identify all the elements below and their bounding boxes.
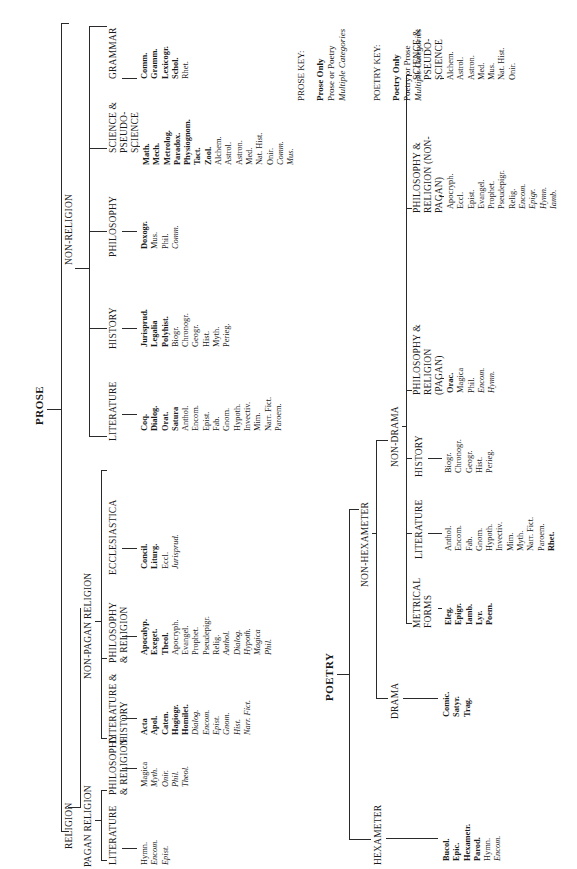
- list-item: Iamb.: [465, 603, 475, 625]
- list-item: Prose or Poetry: [326, 29, 337, 101]
- list-item: Phil.: [467, 368, 477, 393]
- connector: [101, 738, 107, 739]
- poetry-non-drama-header: NON-DRAMA: [390, 406, 401, 467]
- list-item: Dialog.: [191, 700, 201, 735]
- connector: [122, 328, 137, 329]
- poetry-literature-header: LITERATURE: [414, 499, 425, 559]
- connector: [440, 196, 444, 197]
- prose-grammar-header: GRAMMAR: [108, 27, 119, 79]
- list-item: Chronogr.: [181, 309, 191, 347]
- connector: [101, 470, 107, 471]
- connector: [122, 768, 137, 769]
- list-item: Encom.: [191, 397, 201, 431]
- connector: [122, 78, 137, 79]
- list-item: Encom.: [518, 170, 528, 209]
- list-item: Multiple Categories: [413, 29, 424, 101]
- list-item: Hypoth.: [243, 616, 253, 655]
- connector: [101, 791, 102, 861]
- list-item: Nat. Hist.: [255, 119, 265, 165]
- poetry-science-list: Alchem.Astrol.Astron.Med.Mus.Nat. Hist.O…: [446, 48, 518, 80]
- prose-philosophy-header: PHILOSOPHY: [108, 196, 119, 257]
- prose-philosophy-list: Doxogr.Mus.Phil.Comm.: [140, 221, 181, 249]
- list-item: Mus.: [150, 221, 160, 249]
- list-item: Prose Only: [315, 29, 326, 101]
- prose-history-list: Jurisprud.LegaliaPolyhist.Biogr.Chronogr…: [140, 309, 233, 347]
- list-item: Epigr.: [528, 170, 538, 209]
- list-item: Dialog.: [150, 397, 160, 431]
- list-item: Geogr.: [465, 439, 475, 473]
- connector: [440, 378, 444, 379]
- list-item: Pseudepigr.: [202, 616, 212, 655]
- list-item: Mech.: [152, 119, 162, 165]
- non-religion-label: NON-RELIGION: [64, 194, 75, 265]
- list-item: Magica: [456, 368, 466, 393]
- list-item: Comm.: [140, 46, 150, 79]
- list-item: Epist.: [202, 397, 212, 431]
- list-item: Comm.: [171, 221, 181, 249]
- poetry-title: POETRY: [323, 653, 335, 701]
- list-item: Multiple Categories: [337, 29, 348, 101]
- connector: [440, 78, 444, 79]
- list-item: Epic.: [452, 824, 462, 861]
- list-item: Homilet.: [181, 700, 191, 735]
- prose-literature-list: Coq.Dialog.Orat.SaturaAnthol.Encom.Epist…: [140, 397, 284, 431]
- list-item: Eleg.: [444, 603, 454, 625]
- list-item: Paradox.: [173, 119, 183, 165]
- list-item: Alchem.: [446, 48, 456, 80]
- connector: [89, 436, 107, 437]
- list-item: Eccl.: [456, 170, 466, 209]
- connector: [337, 674, 349, 675]
- prose-ecclesiastica-list: Concil.Liturg.Eccl.Jurisprud.: [140, 534, 181, 569]
- list-item: Epist.: [161, 840, 171, 865]
- list-item: Relig.: [508, 170, 518, 209]
- connector: [47, 409, 61, 410]
- list-item: Anthol.: [181, 397, 191, 431]
- list-item: Anthol.: [222, 616, 232, 655]
- list-item: Theol.: [161, 616, 171, 655]
- list-item: Paroem.: [274, 397, 284, 431]
- poetry-phil-nonpagan-header: PHILOSOPHY & RELIGION (NON-PAGAN): [412, 129, 445, 213]
- list-item: Eccl.: [161, 534, 171, 569]
- prose-science-header: SCIENCE & PSEUDO-SCIENCE: [108, 93, 141, 153]
- list-item: Schol.: [171, 46, 181, 79]
- poetry-key-entries: Poetry OnlyPoetry or ProseMultiple Categ…: [391, 29, 424, 101]
- connector: [122, 414, 137, 415]
- connector: [376, 441, 377, 699]
- list-item: Nat. Hist.: [497, 48, 507, 80]
- list-item: Orac.: [446, 368, 456, 393]
- list-item: Apol.: [150, 700, 160, 735]
- list-item: Mim.: [253, 397, 263, 431]
- connector: [122, 548, 137, 549]
- list-item: Phil.: [161, 221, 171, 249]
- poetry-phil-pagan-list: Orac.MagicaPhil.Encom.Hymn.: [446, 368, 497, 393]
- connector: [61, 23, 69, 24]
- prose-key: PROSE KEY: Prose OnlyProse or PoetryMult…: [296, 29, 348, 101]
- list-item: Coq.: [140, 397, 150, 431]
- list-item: Gnom.: [222, 700, 232, 735]
- list-item: Encom.: [150, 840, 160, 865]
- list-item: Evangel.: [477, 170, 487, 209]
- list-item: Jurisprud.: [140, 309, 150, 347]
- list-item: Metrolog.: [163, 119, 173, 165]
- connector: [122, 231, 137, 232]
- list-item: Relig.: [212, 616, 222, 655]
- connector: [349, 510, 350, 840]
- prose-literature-header: LITERATURE: [108, 381, 119, 441]
- list-item: Magica: [253, 616, 263, 655]
- connector: [406, 76, 407, 624]
- list-item: Narr. Fict.: [264, 397, 274, 431]
- poetry-phil-nonpagan-list: Apocryph.Eccl.Epist.Evangel.Prophet.Pseu…: [446, 170, 559, 209]
- prose-key-title: PROSE KEY:: [296, 29, 307, 101]
- list-item: Encom.: [493, 824, 503, 861]
- list-item: Satyr.: [452, 692, 462, 717]
- list-item: Epist.: [212, 700, 222, 735]
- connector: [406, 458, 412, 459]
- prose-title: PROSE: [33, 386, 45, 425]
- connector: [438, 608, 442, 609]
- prose-science-list: Math.Mech.Metrolog.Paradox.Physiognom.Ta…: [142, 119, 296, 165]
- pagan-religion-label: PAGAN RELIGION: [83, 785, 94, 867]
- list-item: Astron.: [467, 48, 477, 80]
- list-item: Hagiogr.: [171, 700, 181, 735]
- poetry-hexameter-list: Bucol.Epic.Hexametr.Parod.Hymn.Encom.: [442, 824, 504, 861]
- list-item: Hist.: [475, 439, 485, 473]
